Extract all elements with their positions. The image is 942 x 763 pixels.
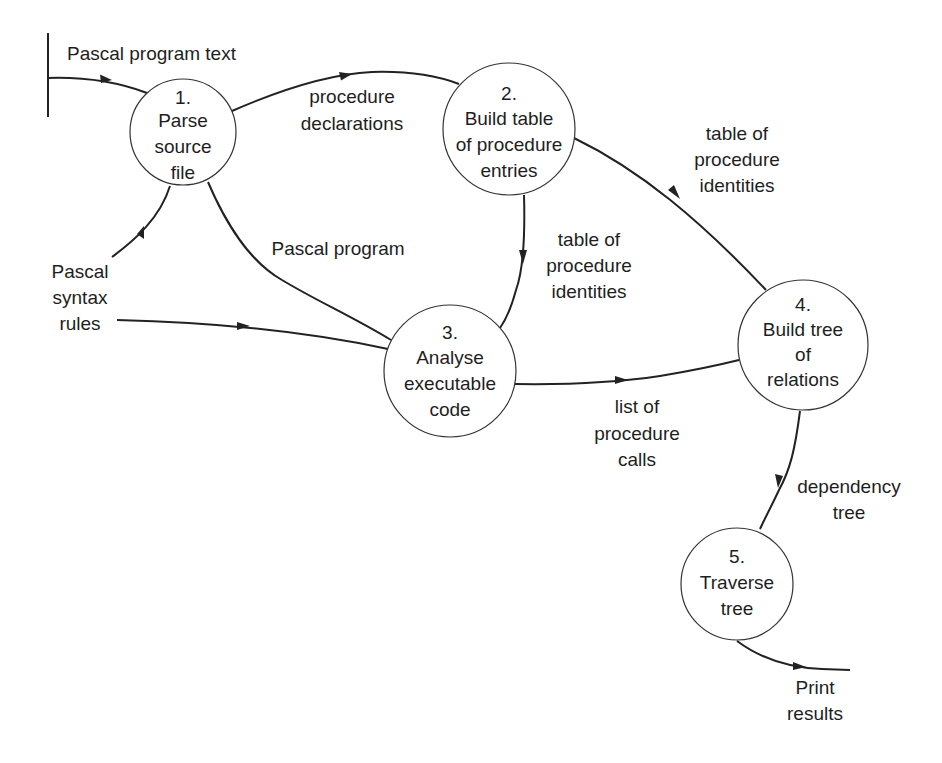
label-pascal-syntax-rules: syntax <box>53 287 108 308</box>
flow-procedure-calls <box>515 360 739 384</box>
label-table-identities-b: procedure <box>694 149 780 170</box>
flow-syntax-to-parse <box>112 186 170 257</box>
arrow-icon <box>519 250 527 264</box>
label-table-identities-b: table of <box>706 123 769 144</box>
arrow-icon <box>137 226 144 239</box>
data-flow-diagram: 1. Parse source file 2. Build table of p… <box>0 0 942 763</box>
label-table-identities-a: table of <box>558 229 621 250</box>
flow-program-text <box>48 78 147 93</box>
label-pascal-syntax-rules: Pascal <box>51 261 108 282</box>
process-label: of procedure <box>456 134 563 155</box>
process-label: file <box>171 162 195 183</box>
label-table-identities-a: procedure <box>546 255 632 276</box>
process-label: code <box>429 399 470 420</box>
label-procedure-declarations: procedure <box>309 86 395 107</box>
process-label: entries <box>480 160 537 181</box>
label-procedure-calls: list of <box>615 396 660 417</box>
process-label: Traverse <box>700 572 774 593</box>
process-number: 5. <box>729 546 745 567</box>
process-label: of <box>795 344 812 365</box>
label-procedure-declarations: declarations <box>301 113 403 134</box>
label-print-results: Print <box>795 677 835 698</box>
label-procedure-calls: calls <box>618 449 656 470</box>
flow-syntax-to-analyse <box>117 320 388 349</box>
process-label: Analyse <box>416 347 484 368</box>
label-dependency-tree: dependency <box>797 476 901 497</box>
label-print-results: results <box>787 703 843 724</box>
arrow-icon <box>615 376 628 384</box>
process-5-traverse-tree: 5. Traverse tree <box>681 528 793 640</box>
process-label: Build tree <box>763 319 843 340</box>
label-table-identities-a: identities <box>552 281 627 302</box>
process-label: tree <box>721 598 754 619</box>
process-number: 2. <box>501 83 517 104</box>
process-number: 4. <box>795 294 811 315</box>
arrow-icon <box>237 322 250 330</box>
flow-table-to-analyse <box>500 195 524 328</box>
process-label: executable <box>404 373 496 394</box>
process-4-build-tree: 4. Build tree of relations <box>738 280 868 410</box>
label-dependency-tree: tree <box>833 502 866 523</box>
flow-dependency-tree <box>760 411 800 529</box>
process-label: Parse <box>158 110 208 131</box>
process-label: Build table <box>465 108 554 129</box>
label-pascal-program: Pascal program <box>271 238 404 259</box>
flow-pascal-program <box>208 182 391 340</box>
process-number: 3. <box>442 322 458 343</box>
process-number: 1. <box>175 87 191 108</box>
process-2-build-table: 2. Build table of procedure entries <box>443 63 575 195</box>
process-1-parse-source-file: 1. Parse source file <box>130 79 236 185</box>
arrow-icon <box>668 185 680 199</box>
label-table-identities-b: identities <box>700 175 775 196</box>
arrow-icon <box>793 662 806 670</box>
label-program-text: Pascal program text <box>67 43 237 64</box>
label-pascal-syntax-rules: rules <box>59 313 100 334</box>
label-procedure-calls: procedure <box>594 423 680 444</box>
process-3-analyse-code: 3. Analyse executable code <box>384 305 516 437</box>
process-label: relations <box>767 369 839 390</box>
process-label: source <box>154 136 211 157</box>
